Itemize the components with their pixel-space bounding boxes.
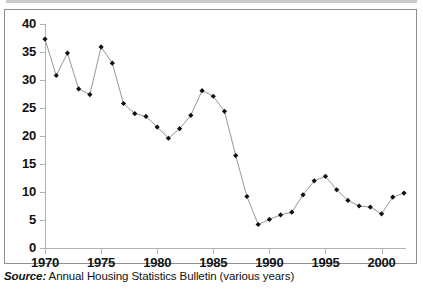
source-text: Annual Housing Statistics Bulletin (vari… [49,270,295,282]
source-caption: Source: Annual Housing Statistics Bullet… [4,270,294,282]
source-label: Source: [4,270,46,282]
figure-container: 0510152025303540 19701975198019851990199… [0,0,423,293]
chart-frame [4,9,417,264]
cropped-top-edge [6,0,417,3]
